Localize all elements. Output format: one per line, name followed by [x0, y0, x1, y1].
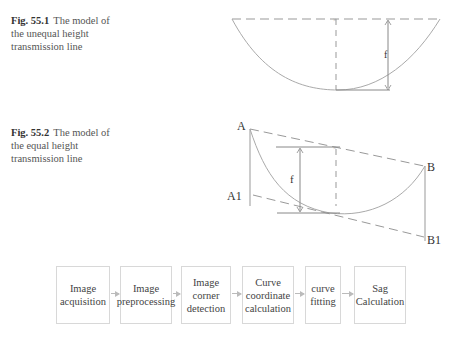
symmetric-span-model: × f	[232, 17, 440, 90]
arrow-right-icon	[295, 293, 304, 294]
flow-step-sag-calculation: Sag Calculation	[354, 266, 406, 324]
parallel-tangent-dashed	[253, 195, 424, 237]
midpoint-marker: ×	[333, 145, 336, 151]
flow-step-curve-fitting: curve fitting	[305, 266, 341, 324]
flow-step-image-preprocessing: Image preprocessing	[120, 266, 172, 324]
sag-label: f	[384, 49, 388, 60]
point-a-label: A	[237, 119, 246, 133]
processing-flowchart: Image acquisition Image preprocessing Im…	[0, 266, 450, 326]
point-b-label: B	[427, 160, 435, 174]
catenary-curve	[250, 129, 425, 214]
midpoint-marker: ×	[333, 17, 336, 23]
arrow-right-icon	[342, 293, 353, 294]
point-a1-label: A1	[227, 189, 242, 203]
flow-step-corner-detection: Image corner detection	[181, 266, 231, 324]
arrow-right-icon	[232, 293, 241, 294]
figure-55-2-diagram: × f A A1 B B1	[227, 119, 441, 247]
flow-step-curve-coordinate: Curve coordinate calculation	[242, 266, 294, 324]
arrow-right-icon	[173, 293, 180, 294]
sag-label: f	[290, 173, 294, 185]
flow-step-image-acquisition: Image acquisition	[56, 266, 110, 324]
point-b1-label: B1	[427, 233, 441, 247]
